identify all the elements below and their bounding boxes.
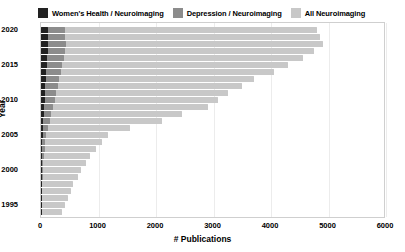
y-tick-2020: 2020 — [1, 25, 18, 34]
bar-segment — [41, 83, 45, 89]
bar-rows — [41, 23, 384, 217]
bar-segment — [41, 27, 48, 33]
bar-row — [41, 195, 386, 201]
bar-row — [41, 174, 386, 180]
bar-segment — [41, 209, 62, 215]
bar-row — [41, 48, 386, 54]
bar-segment — [41, 27, 317, 33]
x-tick-0: 0 — [38, 221, 42, 230]
bar-row — [41, 139, 386, 145]
bar-row — [41, 27, 386, 33]
legend-label: Depression / Neuroimaging — [187, 9, 282, 18]
bar-segment — [41, 111, 182, 117]
gridline-6000 — [386, 23, 387, 217]
bar-segment — [41, 90, 45, 96]
bar-row — [41, 76, 386, 82]
legend-item-2[interactable]: All Neuroimaging — [291, 8, 366, 18]
bar-segment — [41, 153, 42, 159]
bar-row — [41, 83, 386, 89]
bar-segment — [41, 146, 96, 152]
bar-segment — [41, 209, 42, 215]
x-tick-2000: 2000 — [147, 221, 164, 230]
bar-segment — [41, 174, 78, 180]
bar-row — [41, 118, 386, 124]
bar-segment — [41, 41, 323, 47]
bar-segment — [41, 202, 65, 208]
bar-segment — [41, 48, 314, 54]
bar-segment — [41, 167, 42, 173]
bar-segment — [41, 76, 46, 82]
x-tick-4000: 4000 — [262, 221, 279, 230]
bar-segment — [41, 132, 108, 138]
bar-segment — [41, 48, 48, 54]
bar-segment — [41, 139, 102, 145]
bar-row — [41, 97, 386, 103]
y-tick-1995: 1995 — [1, 200, 18, 209]
bar-segment — [41, 181, 73, 187]
bar-segment — [41, 34, 48, 40]
bar-row — [41, 90, 386, 96]
bar-segment — [41, 104, 44, 110]
bar-segment — [41, 104, 208, 110]
bar-segment — [41, 195, 68, 201]
bar-segment — [41, 167, 81, 173]
legend-swatch-icon — [38, 8, 48, 18]
bar-segment — [41, 97, 45, 103]
bar-segment — [41, 62, 47, 68]
bar-segment — [41, 76, 254, 82]
chart-figure: Women's Health / NeuroimagingDepression … — [0, 0, 405, 252]
bar-row — [41, 146, 386, 152]
bar-segment — [41, 62, 288, 68]
x-tick-1000: 1000 — [89, 221, 106, 230]
bar-segment — [41, 153, 90, 159]
bar-segment — [41, 69, 274, 75]
bar-row — [41, 55, 386, 61]
bar-segment — [41, 118, 43, 124]
bar-row — [41, 209, 386, 215]
bar-segment — [41, 118, 162, 124]
y-tick-2000: 2000 — [1, 165, 18, 174]
bar-segment — [41, 181, 42, 187]
bar-row — [41, 104, 386, 110]
y-axis-title: Year — [0, 100, 7, 118]
plot-area — [40, 22, 385, 218]
bar-segment — [41, 90, 228, 96]
bar-segment — [41, 41, 48, 47]
bar-row — [41, 41, 386, 47]
bar-row — [41, 160, 386, 166]
bar-segment — [41, 195, 42, 201]
x-axis-title: # Publications — [0, 234, 405, 244]
legend-label: Women's Health / Neuroimaging — [52, 9, 164, 18]
bar-segment — [41, 125, 43, 131]
bar-segment — [41, 160, 42, 166]
bar-row — [41, 34, 386, 40]
bar-row — [41, 69, 386, 75]
bar-segment — [41, 146, 42, 152]
legend-item-1[interactable]: Depression / Neuroimaging — [173, 8, 282, 18]
bar-segment — [41, 174, 42, 180]
bar-segment — [41, 34, 320, 40]
bar-segment — [41, 55, 303, 61]
bar-segment — [41, 188, 71, 194]
x-tick-5000: 5000 — [319, 221, 336, 230]
bar-segment — [41, 69, 46, 75]
bar-segment — [41, 160, 86, 166]
legend-label: All Neuroimaging — [305, 9, 366, 18]
bar-row — [41, 132, 386, 138]
bar-row — [41, 62, 386, 68]
bar-segment — [41, 55, 47, 61]
legend-item-0[interactable]: Women's Health / Neuroimaging — [38, 8, 164, 18]
y-tick-2005: 2005 — [1, 130, 18, 139]
bar-segment — [41, 97, 218, 103]
bar-segment — [41, 125, 130, 131]
chart-legend: Women's Health / NeuroimagingDepression … — [38, 6, 400, 20]
y-tick-2015: 2015 — [1, 60, 18, 69]
legend-swatch-icon — [291, 8, 301, 18]
bar-segment — [41, 188, 42, 194]
bar-segment — [41, 202, 42, 208]
bar-row — [41, 167, 386, 173]
bar-segment — [41, 132, 43, 138]
bar-row — [41, 188, 386, 194]
x-tick-6000: 6000 — [377, 221, 394, 230]
bar-segment — [41, 111, 44, 117]
